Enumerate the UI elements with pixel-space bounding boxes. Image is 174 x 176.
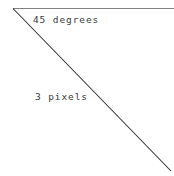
line-diagram-svg [0,0,174,176]
length-annotation-label: 3 pixels [35,92,88,102]
diagonal-45-degree-line [13,9,171,172]
diagram-canvas: 45 degrees 3 pixels [0,0,174,176]
angle-annotation-label: 45 degrees [33,15,99,25]
